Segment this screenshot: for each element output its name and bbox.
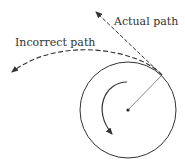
incorrect-path-label: Incorrect path [15, 37, 95, 48]
radius-line [128, 75, 162, 110]
actual-path-label: Actual path [114, 16, 178, 27]
rotation-arrow [102, 82, 127, 134]
